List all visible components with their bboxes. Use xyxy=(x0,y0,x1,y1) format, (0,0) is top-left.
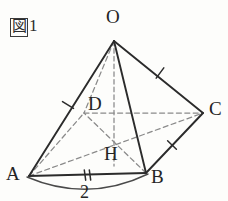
tick-marks xyxy=(63,68,177,180)
label-vertex-a: A xyxy=(6,164,20,183)
edge-A-B xyxy=(29,173,146,176)
edge-O-C xyxy=(114,41,203,113)
figure-caption: 図1 xyxy=(10,17,38,37)
figure-caption-number: 1 xyxy=(29,17,38,34)
label-vertex-b: B xyxy=(151,167,164,186)
edge-B-C xyxy=(146,113,203,173)
tick-edge-AB-2 xyxy=(89,170,90,180)
tick-edge-OA xyxy=(63,102,74,109)
figure-caption-kanji: 図 xyxy=(10,18,28,37)
label-vertex-o: O xyxy=(106,7,120,26)
figure-page: 図1 O A B C D H 2 xyxy=(0,0,228,201)
label-vertex-c: C xyxy=(209,99,222,118)
label-point-h: H xyxy=(104,144,118,163)
label-vertex-d: D xyxy=(88,94,102,113)
edge-O-B xyxy=(114,41,146,173)
label-length-ab: 2 xyxy=(80,183,89,201)
tick-edge-OC xyxy=(156,68,164,78)
tick-edge-AB-1 xyxy=(84,170,85,180)
